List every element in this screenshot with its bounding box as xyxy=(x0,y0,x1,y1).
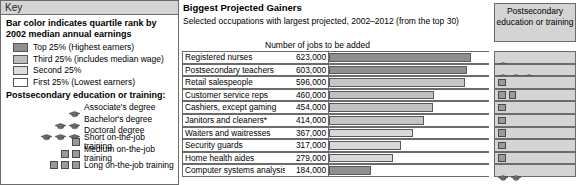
quartile-label: Second 25% xyxy=(33,66,81,75)
key-panel: Key Bar color indicates quartile rank by… xyxy=(0,0,179,185)
mortarboard-icon xyxy=(55,116,66,123)
key-panel-body: Bar color indicates quartile rank by 200… xyxy=(1,15,178,171)
square-icon xyxy=(50,161,58,169)
quartile-color-swatch xyxy=(13,43,28,52)
occupation-name: Registered nurses xyxy=(182,51,285,64)
bar xyxy=(329,141,401,150)
jobs-value: 623,000 xyxy=(285,51,329,64)
key-training-item: Long on-the-job training xyxy=(6,160,174,172)
training-icon-group xyxy=(6,138,84,146)
education-cell xyxy=(494,51,576,64)
mortarboard-icon xyxy=(498,167,508,174)
table-row: Registered nurses623,000 xyxy=(182,51,576,64)
training-icon-group xyxy=(6,116,84,123)
bar xyxy=(329,103,433,112)
key-training-item: Bachelor's degree xyxy=(6,114,174,126)
square-icon xyxy=(498,79,506,87)
education-cell xyxy=(494,101,576,114)
bar xyxy=(329,116,424,125)
table-row: Cashiers, except gaming454,000 xyxy=(182,101,576,114)
jobs-value: 279,000 xyxy=(285,152,329,165)
training-label: Associate's degree xyxy=(84,103,156,112)
quartile-label: Top 25% (Highest earners) xyxy=(33,43,134,52)
chart-panel: Biggest Projected Gainers Selected occup… xyxy=(182,0,578,185)
bar-cell xyxy=(329,51,489,64)
key-quartile-list: Top 25% (Highest earners)Third 25% (incl… xyxy=(6,42,174,88)
key-quartile-item: Top 25% (Highest earners) xyxy=(6,42,174,54)
mortarboard-icon xyxy=(69,104,80,111)
bar xyxy=(329,166,371,175)
square-icon xyxy=(498,91,506,99)
table-row: Computer systems analysis184,000 xyxy=(182,164,576,177)
occupation-name: Customer service reps xyxy=(182,89,285,102)
education-column-header: Postsecondary education or training xyxy=(494,3,576,42)
quartile-color-swatch xyxy=(13,55,28,64)
table-row: Janitors and cleaners*414,000 xyxy=(182,114,576,127)
key-training-item: Associate's degree xyxy=(6,102,174,114)
occupation-name: Janitors and cleaners* xyxy=(182,114,285,127)
quartile-label: Third 25% (includes median wage) xyxy=(33,55,164,64)
bar-cell xyxy=(329,164,489,177)
square-icon xyxy=(498,104,506,112)
occupation-name: Cashiers, except gaming xyxy=(182,101,285,114)
bar-cell xyxy=(329,101,489,114)
bar-cell xyxy=(329,89,489,102)
bar-axis-label: Number of jobs to be added xyxy=(265,40,370,50)
bar xyxy=(329,78,465,87)
education-cell xyxy=(494,76,576,89)
education-cell xyxy=(494,127,576,140)
education-cell xyxy=(494,64,576,77)
infographic-root: Key Bar color indicates quartile rank by… xyxy=(0,0,578,185)
quartile-color-swatch xyxy=(13,78,28,87)
mortarboard-icon xyxy=(511,167,521,174)
mortarboard-icon xyxy=(498,54,508,61)
mortarboard-icon xyxy=(511,67,521,74)
square-icon xyxy=(498,142,506,150)
square-icon xyxy=(498,154,506,162)
bar xyxy=(329,91,434,100)
mortarboard-icon xyxy=(55,127,66,134)
occupation-name: Retail salespeople xyxy=(182,76,285,89)
mortarboard-icon xyxy=(69,127,80,134)
square-icon xyxy=(498,129,506,137)
mortarboard-icon xyxy=(498,67,508,74)
square-icon xyxy=(61,161,69,169)
square-icon xyxy=(72,150,80,158)
occupation-name: Security guards xyxy=(182,139,285,152)
table-row: Postsecondary teachers603,000 xyxy=(182,64,576,77)
training-icon-group xyxy=(6,127,84,134)
jobs-value: 596,000 xyxy=(285,76,329,89)
training-label: Long on-the-job training xyxy=(84,161,174,170)
table-row: Home health aides279,000 xyxy=(182,152,576,165)
training-icon-group xyxy=(6,104,84,111)
quartile-label: First 25% (Lowest earners) xyxy=(33,78,135,87)
key-quartile-item: Second 25% xyxy=(6,65,174,77)
key-quartile-item: Third 25% (includes median wage) xyxy=(6,54,174,66)
bar-cell xyxy=(329,127,489,140)
mortarboard-icon xyxy=(41,127,52,134)
occupation-table: Registered nurses623,000Postsecondary te… xyxy=(182,51,576,177)
square-icon xyxy=(72,161,80,169)
bar xyxy=(329,129,413,138)
key-training-item: Medium on-the-job training xyxy=(6,148,174,160)
bar-cell xyxy=(329,139,489,152)
bar-cell xyxy=(329,114,489,127)
bar-cell xyxy=(329,152,489,165)
occupation-name: Computer systems analysis xyxy=(182,164,285,177)
jobs-value: 367,000 xyxy=(285,127,329,140)
jobs-value: 460,000 xyxy=(285,89,329,102)
education-cell xyxy=(494,89,576,102)
bar xyxy=(329,154,393,163)
jobs-value: 184,000 xyxy=(285,164,329,177)
occupation-name: Waiters and waitresses xyxy=(182,127,285,140)
bar-cell xyxy=(329,64,489,77)
jobs-value: 603,000 xyxy=(285,64,329,77)
square-icon xyxy=(61,150,69,158)
jobs-value: 317,000 xyxy=(285,139,329,152)
table-row: Retail salespeople596,000 xyxy=(182,76,576,89)
key-training-title: Postsecondary education or training: xyxy=(6,90,174,101)
table-row: Waiters and waitresses367,000 xyxy=(182,127,576,140)
square-icon xyxy=(498,117,506,125)
key-quartile-item: First 25% (Lowest earners) xyxy=(6,77,174,89)
occupation-name: Home health aides xyxy=(182,152,285,165)
